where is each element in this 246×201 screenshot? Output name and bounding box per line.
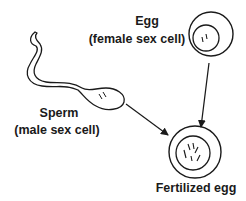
egg-cell-icon (189, 12, 233, 56)
fertilized-egg-icon (169, 126, 221, 178)
sperm-label: Sperm (35, 106, 83, 120)
arrow-sperm-to-fertilized (126, 104, 168, 135)
fertilized-egg-label: Fertilized egg (150, 181, 242, 195)
egg-sublabel: (female sex cell) (84, 32, 190, 46)
egg-label: Egg (132, 14, 162, 28)
sperm-sublabel: (male sex cell) (10, 123, 104, 137)
fertilization-diagram (0, 0, 246, 201)
arrow-egg-to-fertilized (201, 63, 209, 127)
